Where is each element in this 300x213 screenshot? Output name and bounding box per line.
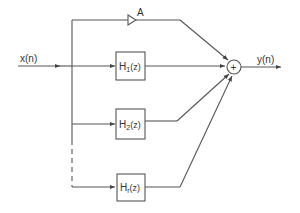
filter-branch-1: H1(z) [72, 52, 225, 80]
parallel-filter-diagram: x(n) A H1(z) H2(z) Hr(z) + [0, 0, 300, 213]
input-signal: x(n) [18, 53, 72, 66]
input-label: x(n) [20, 53, 37, 64]
output-signal: y(n) [241, 54, 281, 67]
gain-label: A [137, 7, 144, 18]
svg-text:H1(z): H1(z) [119, 61, 141, 73]
filter-branch-r: Hr(z) [72, 76, 232, 201]
summing-junction: + [227, 60, 241, 74]
svg-text:Hr(z): Hr(z) [120, 182, 140, 194]
gain-triangle-icon [128, 15, 136, 25]
gain-branch: A [72, 7, 228, 60]
svg-text:H2(z): H2(z) [119, 119, 141, 131]
output-label: y(n) [257, 54, 274, 65]
filter-branch-2: H2(z) [72, 74, 229, 139]
svg-text:+: + [231, 62, 237, 73]
